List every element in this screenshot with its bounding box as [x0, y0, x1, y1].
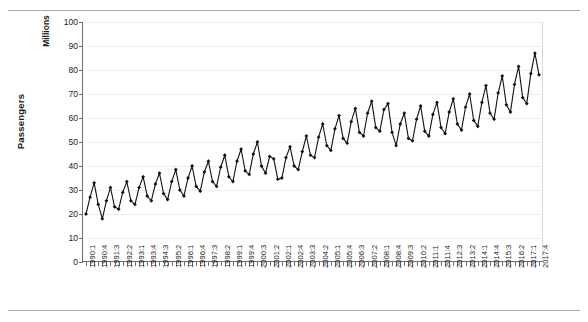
x-tick-label: 1990:4: [101, 245, 109, 268]
chart-figure: Passengers Millions 01020304050607080901…: [0, 0, 588, 322]
y-tick-label: 40: [38, 162, 78, 171]
data-point-marker: [84, 212, 88, 216]
x-tick-mark: [343, 262, 344, 266]
data-point-marker: [321, 122, 325, 126]
x-tick-mark: [368, 262, 369, 266]
x-tick-label: 1994:3: [162, 245, 170, 268]
x-tick-label: 2005:4: [346, 245, 354, 268]
data-point-marker: [353, 107, 357, 111]
x-tick-mark: [123, 262, 124, 266]
data-point-marker: [121, 191, 125, 195]
data-point-marker: [517, 65, 521, 69]
x-tick-mark: [233, 262, 234, 266]
x-tick-mark: [527, 262, 528, 266]
x-tick-label: 2015:3: [505, 245, 513, 268]
series-polyline: [86, 53, 539, 219]
data-point-marker: [235, 159, 239, 163]
x-tick-label: 2004:2: [322, 245, 330, 268]
x-tick-label: 2016:2: [518, 245, 526, 268]
x-tick-label: 2008:4: [395, 245, 403, 268]
x-tick-mark: [417, 262, 418, 266]
data-point-marker: [431, 113, 435, 117]
y-tick-label: 60: [38, 114, 78, 123]
y-tick-label: 90: [38, 42, 78, 51]
data-point-marker: [447, 110, 451, 114]
x-tick-mark: [294, 262, 295, 266]
data-point-marker: [202, 170, 206, 174]
x-tick-label: 1993:4: [150, 245, 158, 268]
x-tick-label: 2010:2: [420, 245, 428, 268]
x-tick-mark: [221, 262, 222, 266]
data-point-marker: [349, 120, 353, 124]
x-tick-label: 2009:3: [407, 245, 415, 268]
x-tick-mark: [478, 262, 479, 266]
data-point-marker: [190, 164, 194, 168]
data-point-marker: [390, 131, 394, 135]
data-point-marker: [529, 72, 533, 76]
x-tick-mark: [270, 262, 271, 266]
data-point-marker: [125, 180, 129, 184]
x-tick-mark: [539, 262, 540, 266]
data-point-marker: [366, 111, 370, 115]
y-tick-label: 30: [38, 186, 78, 195]
data-point-marker: [419, 104, 423, 108]
data-point-marker: [415, 117, 419, 121]
y-tick-label: 80: [38, 66, 78, 75]
x-tick-label: 1995:2: [175, 245, 183, 268]
x-tick-label: 1990:1: [89, 245, 97, 268]
x-tick-label: 1999:1: [236, 245, 244, 268]
x-tick-label: 1991:3: [113, 245, 121, 268]
series-line-passengers: [82, 22, 543, 262]
x-tick-label: 2006:3: [358, 245, 366, 268]
x-tick-label: 2011:1: [432, 245, 440, 268]
x-tick-label: 2001:2: [273, 245, 281, 268]
figure-bottom-border: [8, 310, 580, 311]
x-tick-mark: [245, 262, 246, 266]
data-point-marker: [223, 153, 227, 157]
x-tick-label: 2002:1: [285, 245, 293, 268]
x-tick-label: 1996:4: [199, 245, 207, 268]
data-point-marker: [96, 203, 100, 207]
x-tick-mark: [135, 262, 136, 266]
x-tick-mark: [429, 262, 430, 266]
data-point-marker: [256, 140, 260, 144]
x-tick-mark: [392, 262, 393, 266]
x-tick-label: 1992:2: [126, 245, 134, 268]
data-point-marker: [317, 135, 321, 139]
x-tick-mark: [319, 262, 320, 266]
data-point-marker: [394, 144, 398, 148]
x-tick-label: 1998:2: [224, 245, 232, 268]
data-point-marker: [337, 114, 341, 118]
data-point-marker: [464, 105, 468, 109]
x-tick-mark: [466, 262, 467, 266]
x-tick-label: 1993:1: [138, 245, 146, 268]
data-point-marker: [500, 74, 504, 78]
data-point-marker: [276, 177, 280, 181]
y-tick-label: 70: [38, 90, 78, 99]
data-point-marker: [300, 150, 304, 154]
x-tick-mark: [331, 262, 332, 266]
y-tick-label: 10: [38, 234, 78, 243]
x-tick-mark: [86, 262, 87, 266]
x-tick-label: 1996:1: [187, 245, 195, 268]
data-point-marker: [451, 97, 455, 101]
y-tick-label: 100: [38, 18, 78, 27]
x-tick-label: 2008:1: [383, 245, 391, 268]
x-tick-label: 2013:2: [469, 245, 477, 268]
x-tick-label: 2007:2: [371, 245, 379, 268]
data-point-marker: [480, 101, 484, 105]
y-axis-title: Passengers: [15, 72, 26, 172]
data-point-marker: [284, 156, 288, 160]
data-point-marker: [288, 145, 292, 149]
data-point-marker: [88, 195, 92, 199]
data-point-marker: [533, 51, 537, 55]
data-point-marker: [170, 180, 174, 184]
figure-top-border: [8, 10, 580, 11]
data-point-marker: [280, 176, 284, 180]
data-point-marker: [105, 199, 109, 203]
data-point-marker: [109, 186, 113, 190]
x-axis-tick-labels: 1990:11990:41991:31992:21993:11993:41994…: [82, 268, 544, 310]
y-tick-label: 20: [38, 210, 78, 219]
x-tick-label: 2005:1: [334, 245, 342, 268]
data-point-marker: [92, 181, 96, 185]
